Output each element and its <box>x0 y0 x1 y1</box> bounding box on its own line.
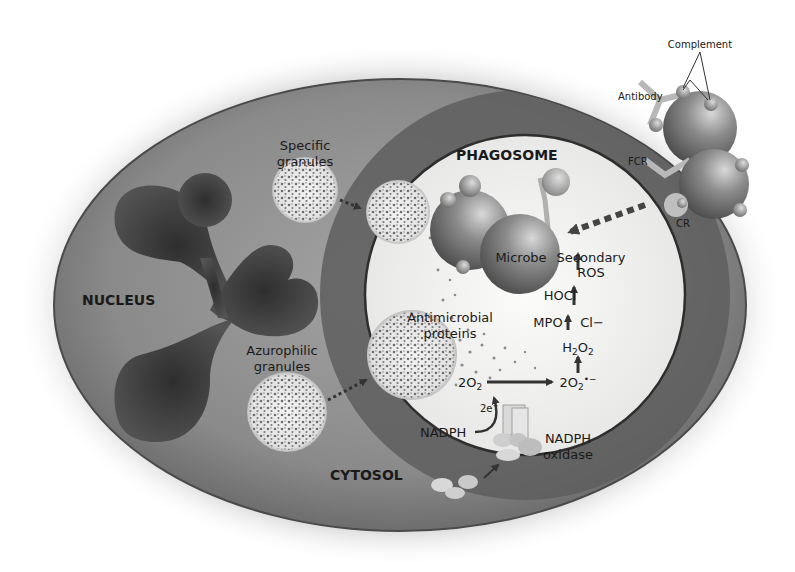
hocl-label: HOCl <box>544 288 577 303</box>
specific-granules-label-2: granules <box>277 154 334 169</box>
complement-label: Complement <box>668 39 732 50</box>
chloride-label: Cl− <box>580 315 604 330</box>
azurophilic-granule <box>247 372 327 452</box>
fusing-specific-granule <box>366 180 430 244</box>
azurophilic-granules-label-2: granules <box>254 359 311 374</box>
antimicrobial-proteins-label-2: proteins <box>424 326 477 341</box>
mpo-label: MPO <box>533 315 562 330</box>
fcr-label: FCR <box>628 156 648 167</box>
nadph-oxidase-label-1: NADPH <box>545 431 591 446</box>
azurophilic-granules-label-1: Azurophilic <box>246 343 317 358</box>
cytosol-label: CYTOSOL <box>330 467 403 483</box>
secondary-ros-label-1: Secondary <box>557 250 626 265</box>
cr-label: CR <box>676 218 690 229</box>
phagosome-label: PHAGOSOME <box>456 147 558 163</box>
nadph-oxidase-label-2: oxidase <box>543 447 593 462</box>
nadph-label: NADPH <box>420 425 466 440</box>
phagocytosis-diagram: NUCLEUS PHAGOSOME CYTOSOL Specific granu… <box>0 0 795 572</box>
nucleus-label: NUCLEUS <box>82 292 155 308</box>
secondary-ros-label-2: ROS <box>577 265 605 280</box>
antimicrobial-proteins-label-1: Antimicrobial <box>407 310 493 325</box>
specific-granules-label-1: Specific <box>280 138 331 153</box>
antibody-label: Antibody <box>618 91 663 102</box>
microbe-label: Microbe <box>495 250 546 265</box>
